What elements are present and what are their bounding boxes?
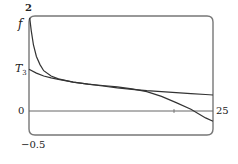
x-right-label: 25 <box>216 106 229 116</box>
y-top-label: 2 <box>25 3 32 13</box>
series-f-line <box>30 18 213 121</box>
t3-curve-label: T3 <box>15 64 27 78</box>
f-curve-label: f <box>18 19 22 29</box>
y-zero-label: 0 <box>18 106 24 116</box>
plot-frame <box>29 16 213 135</box>
y-bottom-label: −0.5 <box>21 140 45 150</box>
series-t3-line <box>29 69 213 95</box>
t3-label-subscript: 3 <box>22 69 26 77</box>
